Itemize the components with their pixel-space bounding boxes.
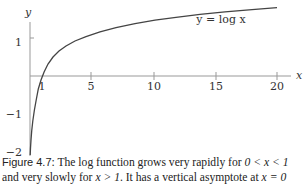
figure-caption: Figure 4.7: The log function grows very …: [2, 155, 307, 185]
figure-number: Figure 4.7: [2, 156, 52, 168]
curve-label: y = log x: [195, 13, 246, 26]
caption-math: x = 0: [262, 171, 287, 184]
x-tick-label-20: 20: [270, 80, 284, 93]
x-axis-label: x: [296, 69, 303, 82]
y-tick-label-neg1: −1: [6, 108, 22, 121]
svg-text:y = log x: y = log x: [195, 13, 246, 26]
caption-text: and very slowly for: [2, 171, 95, 184]
log-function-plot: 1 5 10 15 20 1 −1 −2 y x y = log x: [0, 0, 307, 160]
caption-text: : The log function grows very rapidly fo…: [52, 156, 245, 169]
x-tick-label-5: 5: [88, 80, 95, 93]
caption-math: 0 < x < 1: [245, 156, 289, 169]
caption-math: x > 1: [95, 171, 120, 184]
y-tick-label-1: 1: [15, 36, 22, 49]
x-tick-label-10: 10: [147, 80, 161, 93]
x-tick-label-15: 15: [209, 80, 223, 93]
y-axis-label: y: [24, 6, 32, 19]
caption-text: . It has a vertical asymptote at: [120, 171, 262, 184]
